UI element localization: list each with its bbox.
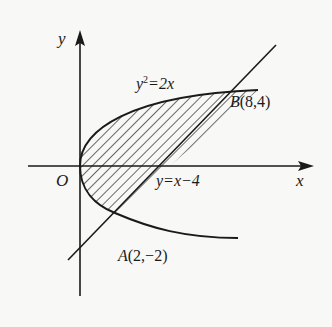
point-b-name: B [230,93,240,110]
point-b-coords: (8,4) [240,93,271,110]
diagram-svg [0,0,332,327]
origin-label: O [56,172,68,189]
point-b-label: B(8,4) [230,94,270,110]
point-a-coords: (2,−2) [128,247,168,264]
point-a-name: A [118,247,128,264]
line-equation-label: y=x−4 [156,173,200,189]
parabola-equation-label: y2=2x [136,75,174,92]
figure-canvas: y x O y2=2x y=x−4 B(8,4) A(2,−2) [0,0,332,327]
x-axis-label: x [296,172,304,189]
parabola-label-rest: =2x [148,75,174,92]
y-axis-label: y [58,30,66,47]
point-a-label: A(2,−2) [118,248,167,264]
